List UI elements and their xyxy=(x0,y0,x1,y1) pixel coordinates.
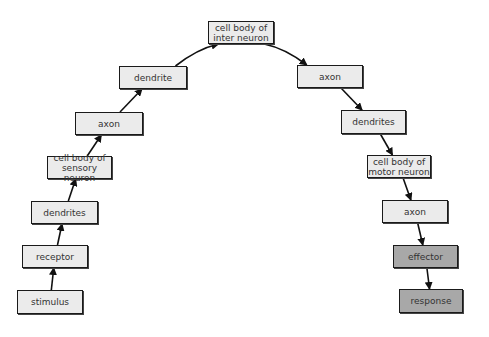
node-label: receptor xyxy=(36,252,74,262)
node-stimulus: stimulus xyxy=(17,290,83,314)
node-label: axon xyxy=(98,119,120,129)
arrow-dendrites-motor-to-cell-body-motor xyxy=(380,134,392,155)
node-label: dendrites xyxy=(352,117,395,127)
arrow-receptor-to-dendrites-sensory xyxy=(57,224,62,245)
node-label: dendrite xyxy=(134,73,172,83)
node-response: response xyxy=(399,289,463,313)
node-axon-motor: axon xyxy=(382,200,448,223)
node-label: cell body of motor neuron xyxy=(368,157,430,177)
arrow-cell-body-inter-to-axon-inter xyxy=(264,44,306,65)
node-cell-body-inter: cell body of inter neuron xyxy=(208,21,274,44)
node-effector: effector xyxy=(393,245,458,268)
arrow-effector-to-response xyxy=(427,268,430,289)
node-label: cell body of sensory neuron xyxy=(48,153,111,183)
node-receptor: receptor xyxy=(22,245,88,268)
arrow-axon-inter-to-dendrites-motor xyxy=(341,88,362,110)
node-label: axon xyxy=(404,207,426,217)
node-cell-body-sensory: cell body of sensory neuron xyxy=(47,156,112,179)
arrow-axon-motor-to-effector xyxy=(418,223,423,245)
node-label: response xyxy=(411,296,452,306)
arrow-axon-sensory-to-dendrite-inter xyxy=(120,89,142,112)
node-axon-inter: axon xyxy=(297,65,363,88)
arrow-dendrite-inter-to-cell-body-inter xyxy=(175,44,218,66)
node-label: axon xyxy=(319,72,341,82)
node-dendrites-motor: dendrites xyxy=(341,110,406,134)
reflex-arc-diagram: stimulusreceptordendritescell body of se… xyxy=(0,0,489,337)
node-label: stimulus xyxy=(31,297,69,307)
node-dendrite-inter: dendrite xyxy=(119,66,187,89)
node-label: effector xyxy=(408,252,443,262)
node-dendrites-sensory: dendrites xyxy=(31,201,98,224)
node-axon-sensory: axon xyxy=(75,112,143,135)
node-label: dendrites xyxy=(43,208,86,218)
node-label: cell body of inter neuron xyxy=(209,23,273,43)
node-cell-body-motor: cell body of motor neuron xyxy=(367,155,431,178)
arrow-stimulus-to-receptor xyxy=(51,268,53,290)
arrow-cell-body-motor-to-axon-motor xyxy=(403,178,411,200)
